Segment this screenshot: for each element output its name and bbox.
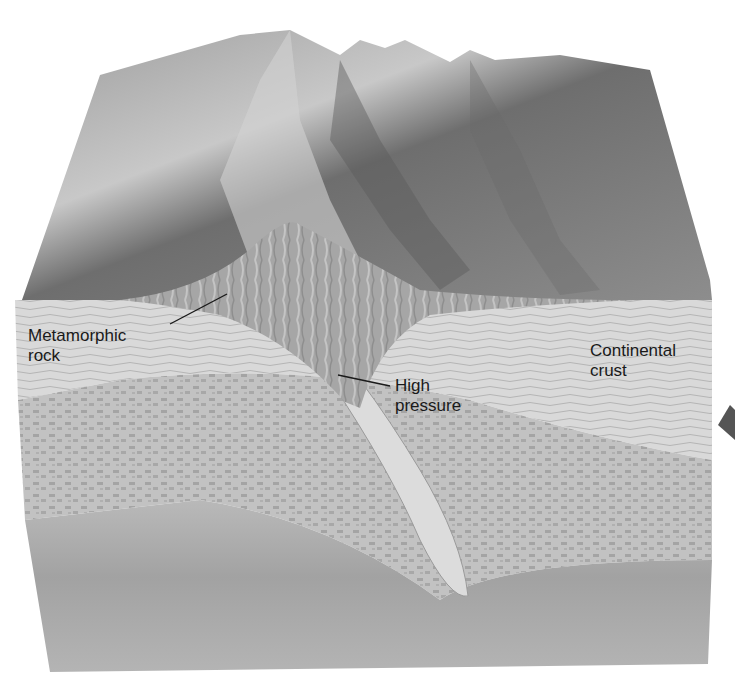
label-high-pressure: High pressure [395, 376, 461, 416]
edge-fragment [718, 405, 735, 440]
label-metamorphic-rock: Metamorphic rock [28, 326, 126, 366]
label-continental-crust: Continental crust [590, 341, 676, 381]
block-diagram: Metamorphic rock High pressure Continent… [0, 0, 735, 684]
